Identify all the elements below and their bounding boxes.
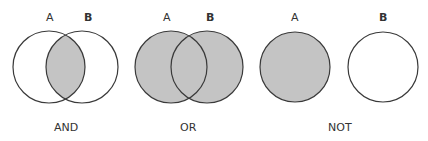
or-diagram: A B OR [135,11,243,134]
not-diagram: A B NOT [260,11,418,134]
not-circle-b-empty [348,32,418,102]
not-caption: NOT [328,121,352,134]
and-label-b: B [84,11,92,24]
or-caption: OR [180,121,197,134]
not-label-b: B [379,11,387,24]
or-label-b: B [206,11,214,24]
or-label-a: A [163,11,171,24]
and-label-a: A [46,11,54,24]
not-circle-a-shaded [260,32,330,102]
and-caption: AND [54,121,78,134]
boolean-venn-diagrams: A B AND A B OR A B NOT [0,0,428,141]
not-label-a: A [291,11,299,24]
and-diagram: A B AND [13,11,118,134]
